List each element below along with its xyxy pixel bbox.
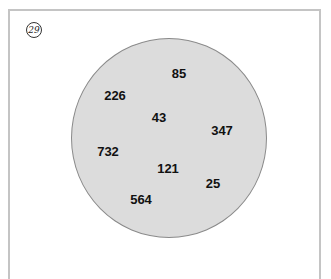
set-number: 43 bbox=[152, 110, 166, 125]
set-number: 732 bbox=[97, 144, 119, 159]
set-circle bbox=[71, 38, 267, 238]
set-number: 121 bbox=[157, 161, 179, 176]
set-number: 25 bbox=[206, 176, 220, 191]
set-number: 226 bbox=[104, 88, 126, 103]
set-number: 347 bbox=[211, 123, 233, 138]
problem-number-badge: 29 bbox=[26, 22, 42, 38]
set-number: 85 bbox=[172, 66, 186, 81]
set-number: 564 bbox=[130, 192, 152, 207]
